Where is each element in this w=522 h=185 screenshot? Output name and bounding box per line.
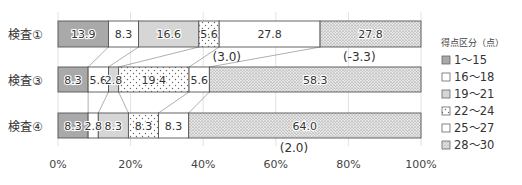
legend-item: 16～18 bbox=[442, 70, 494, 84]
x-tick-label: 80% bbox=[336, 158, 360, 171]
connector-line bbox=[98, 92, 108, 113]
category-label: 検査① bbox=[8, 28, 43, 42]
category-label: 検査③ bbox=[8, 74, 43, 88]
legend-swatch bbox=[442, 141, 450, 149]
value-label: 64.0 bbox=[293, 120, 318, 133]
legend-item: 28～30 bbox=[442, 138, 494, 152]
connector-line bbox=[88, 47, 108, 67]
difference-annotations: (3.0)(-3.3)(2.0) bbox=[213, 50, 376, 155]
connector-line bbox=[159, 92, 189, 113]
legend-swatch bbox=[442, 107, 450, 115]
value-label: 5.6 bbox=[200, 28, 218, 41]
connector-line bbox=[108, 47, 138, 67]
bar-row: 13.98.316.65.627.827.8 bbox=[58, 21, 421, 47]
x-tick-label: 0% bbox=[49, 158, 66, 171]
connector-line bbox=[189, 92, 210, 113]
connector-line bbox=[119, 92, 129, 113]
value-label: 2.8 bbox=[84, 120, 102, 133]
value-label: 8.3 bbox=[64, 120, 82, 133]
value-label: 8.3 bbox=[64, 74, 82, 87]
legend-label: 28～30 bbox=[454, 138, 494, 152]
value-label: 8.3 bbox=[165, 120, 183, 133]
x-axis: 0%20%40%60%80%100% bbox=[49, 158, 436, 171]
legend-label: 19～21 bbox=[454, 87, 494, 101]
x-tick-label: 60% bbox=[264, 158, 288, 171]
legend-swatch bbox=[442, 90, 450, 98]
legend-item: 19～21 bbox=[442, 87, 494, 101]
legend: 得点区分（点）1～1516～1819～2122～2425～2728～30 bbox=[441, 37, 504, 152]
value-label: 8.3 bbox=[105, 120, 123, 133]
value-label: 27.8 bbox=[257, 28, 282, 41]
legend-item: 22～24 bbox=[442, 104, 494, 118]
value-label: 13.9 bbox=[71, 28, 96, 41]
stacked-bar-chart: 13.98.316.65.627.827.88.35.62.819.45.658… bbox=[0, 0, 522, 185]
legend-label: 1～15 bbox=[454, 53, 487, 67]
value-label: 5.6 bbox=[190, 74, 208, 87]
legend-label: 25～27 bbox=[454, 121, 494, 135]
x-tick-label: 20% bbox=[118, 158, 142, 171]
category-labels: 検査①検査③検査④ bbox=[8, 28, 43, 134]
bar-row: 8.32.88.38.38.364.0 bbox=[58, 113, 421, 138]
legend-swatch bbox=[442, 73, 450, 81]
legend-label: 22～24 bbox=[454, 104, 494, 118]
legend-title: 得点区分（点） bbox=[441, 37, 504, 48]
value-label: 27.8 bbox=[358, 28, 383, 41]
value-label: 16.6 bbox=[156, 28, 181, 41]
difference-annotation: (2.0) bbox=[280, 141, 308, 155]
x-tick-label: 40% bbox=[191, 158, 215, 171]
bars: 13.98.316.65.627.827.88.35.62.819.45.658… bbox=[58, 21, 421, 138]
chart-canvas: 13.98.316.65.627.827.88.35.62.819.45.658… bbox=[0, 0, 522, 185]
value-label: 8.3 bbox=[135, 120, 153, 133]
category-label: 検査④ bbox=[8, 120, 43, 134]
legend-swatch bbox=[442, 56, 450, 64]
value-label: 58.3 bbox=[303, 74, 328, 87]
value-label: 2.8 bbox=[105, 74, 123, 87]
difference-annotation: (3.0) bbox=[213, 50, 241, 64]
legend-item: 1～15 bbox=[442, 53, 487, 67]
legend-item: 25～27 bbox=[442, 121, 494, 135]
legend-swatch bbox=[442, 124, 450, 132]
value-label: 8.3 bbox=[115, 28, 133, 41]
bar-row: 8.35.62.819.45.658.3 bbox=[58, 67, 421, 92]
x-tick-label: 100% bbox=[405, 158, 436, 171]
difference-annotation: (-3.3) bbox=[343, 50, 376, 64]
value-label: 19.4 bbox=[142, 74, 167, 87]
legend-label: 16～18 bbox=[454, 70, 494, 84]
